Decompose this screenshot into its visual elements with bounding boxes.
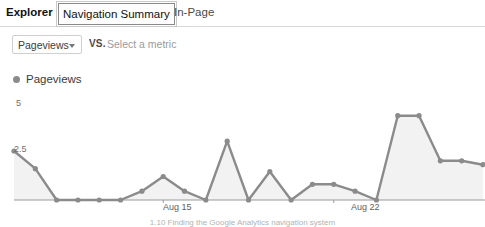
tab-navigation-summary[interactable]: Navigation Summary	[58, 3, 175, 25]
x-axis-tick-label-2: Aug 22	[351, 202, 380, 212]
data-point[interactable]	[118, 197, 123, 202]
tab-in-page[interactable]: In-Page	[174, 3, 214, 21]
data-point[interactable]	[459, 158, 464, 163]
legend-series-label: Pageviews	[26, 72, 82, 86]
data-point[interactable]	[182, 189, 187, 194]
data-point[interactable]	[75, 197, 80, 202]
legend-marker-icon	[13, 76, 20, 83]
pageviews-line-chart: 5 2.5 Aug 15 Aug 22	[0, 94, 485, 212]
data-point[interactable]	[33, 166, 38, 171]
data-point[interactable]	[203, 197, 208, 202]
tab-explorer[interactable]: Explorer	[6, 3, 53, 21]
data-point[interactable]	[310, 182, 315, 187]
report-tab-bar: Explorer Navigation Summary In-Page	[0, 0, 485, 27]
primary-metric-label: Pageviews	[18, 39, 69, 52]
chevron-down-icon	[69, 44, 75, 48]
data-point[interactable]	[267, 169, 272, 174]
primary-metric-dropdown[interactable]: Pageviews	[12, 35, 82, 54]
series-area-fill	[14, 116, 483, 200]
vs-label: VS.	[89, 38, 106, 49]
data-point[interactable]	[395, 113, 400, 118]
data-point[interactable]	[139, 189, 144, 194]
figure-caption: 1.10 Finding the Google Analytics naviga…	[0, 218, 485, 227]
y-axis-tick-mid: 2.5	[14, 144, 27, 154]
data-point[interactable]	[161, 174, 166, 179]
secondary-metric-selector[interactable]: Select a metric	[107, 38, 176, 50]
data-point[interactable]	[416, 113, 421, 118]
chart-plot-area	[0, 94, 485, 212]
data-point[interactable]	[289, 197, 294, 202]
data-point[interactable]	[97, 197, 102, 202]
y-axis-tick-top: 5	[16, 98, 21, 108]
data-point[interactable]	[438, 158, 443, 163]
data-point[interactable]	[331, 182, 336, 187]
data-point[interactable]	[225, 139, 230, 144]
data-point[interactable]	[352, 189, 357, 194]
data-point[interactable]	[54, 197, 59, 202]
data-point[interactable]	[246, 197, 251, 202]
x-axis-tick-label-1: Aug 15	[163, 202, 192, 212]
metric-selector-row: Pageviews VS. Select a metric	[0, 33, 485, 59]
